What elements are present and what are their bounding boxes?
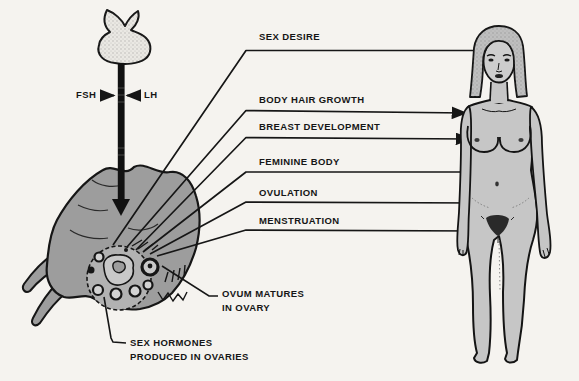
nipple	[474, 138, 479, 142]
nipple	[518, 138, 523, 142]
small-follicle-solid	[88, 267, 95, 274]
lh-label: LH	[144, 90, 157, 100]
ovum-matures-callout: OVUM MATURES IN OVARY	[222, 287, 304, 315]
fsh-label: FSH	[76, 90, 96, 100]
figure-left-arm	[457, 106, 471, 255]
label-body-hair-growth: BODY HAIR GROWTH	[259, 95, 364, 105]
ovum-callout-line1: OVUM MATURES	[222, 287, 304, 301]
female-figure	[457, 26, 551, 363]
corpus-inner	[113, 261, 125, 272]
effect-arrow-menstruation	[157, 230, 480, 256]
hormone-diagram: FSH LH SEX DESIRE BODY HAIR GROWTH BREAS…	[0, 0, 579, 381]
hormones-callout-line1: SEX HORMONES	[130, 336, 249, 350]
leg-shading	[499, 240, 500, 290]
label-feminine-body: FEMININE BODY	[259, 157, 340, 167]
hormones-callout-line2: PRODUCED IN OVARIES	[130, 350, 249, 364]
ovary-illustration	[23, 165, 199, 325]
label-menstruation: MENSTRUATION	[259, 216, 340, 226]
label-breast-development: BREAST DEVELOPMENT	[259, 122, 380, 132]
mature-follicle	[142, 259, 158, 275]
sex-hormones-callout: SEX HORMONES PRODUCED IN OVARIES	[130, 336, 249, 364]
label-ovulation: OVULATION	[259, 188, 318, 198]
navel	[495, 182, 499, 187]
small-follicle-solid	[124, 248, 128, 252]
ovum-callout-line2: IN OVARY	[222, 301, 304, 315]
pituitary-gland	[98, 10, 150, 64]
label-sex-desire: SEX DESIRE	[259, 32, 320, 42]
